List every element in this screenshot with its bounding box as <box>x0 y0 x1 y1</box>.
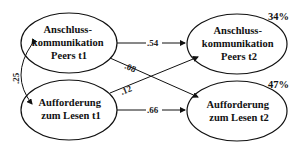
path-diagram: Anschluss- kommunikation Peers t1 Auffor… <box>0 0 301 149</box>
coef-25: .25 <box>11 72 21 84</box>
r2-aufforderung-t2: 47% <box>268 79 289 90</box>
coef-66: .66 <box>147 105 159 115</box>
coef-54: .54 <box>147 38 159 48</box>
coef-08: .08 <box>123 61 138 75</box>
node-aufforderung-t2 <box>187 81 287 141</box>
coef-12: .12 <box>119 83 134 97</box>
r2-anschluss-t2: 34% <box>268 11 289 22</box>
